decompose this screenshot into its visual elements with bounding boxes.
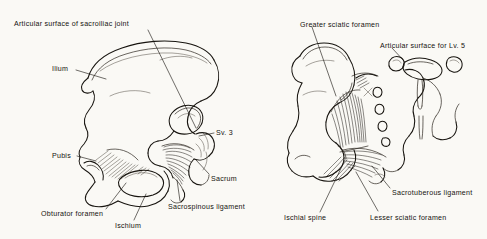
label-ischium: Ischium [115,223,141,230]
right-panel-drawing [287,43,462,184]
label-ischial-spine: Ischial spine [284,215,326,222]
label-sacrum: Sacrum [211,176,237,183]
left-panel-leaders [76,30,214,220]
label-sacrospinous-ligament: Sacrospinous ligament [168,204,245,211]
label-articular-surface-sacroiliac: Articular surface of sacroiliac joint [14,21,129,28]
left-panel-drawing [79,41,218,207]
label-greater-sciatic-foramen: Greater sciatic foramen [300,22,379,29]
label-ilium: Ilium [52,66,68,73]
label-sv-3: Sv. 3 [216,130,233,137]
anatomical-figure: Articular surface of sacroiliac joint Il… [0,0,487,239]
label-sacrotuberous-ligament: Sacrotuberous ligament [392,190,472,197]
label-lesser-sciatic-foramen: Lesser sciatic foramen [370,215,446,222]
label-articular-surface-lv5: Articular surface for Lv. 5 [380,43,465,50]
label-pubis: Pubis [52,153,71,160]
label-obturator-foramen: Obturator foramen [41,211,103,218]
